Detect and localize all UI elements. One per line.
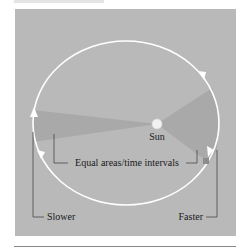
orbit-diagram: Sun Equal areas/time intervals Slower Fa… — [0, 0, 247, 249]
slow-wedge — [33, 110, 157, 142]
planet-icon — [203, 158, 209, 164]
slower-leader — [33, 132, 44, 217]
arrow-left-lower-icon — [37, 150, 45, 159]
sun-label: Sun — [149, 131, 165, 142]
slower-label: Slower — [47, 211, 76, 222]
sun-icon — [152, 119, 162, 129]
equal-areas-label: Equal areas/time intervals — [75, 157, 179, 168]
faster-label: Faster — [179, 211, 204, 222]
